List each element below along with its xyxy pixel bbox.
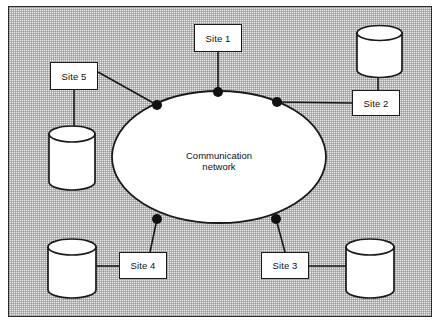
site-1-box[interactable]: Site 1 <box>194 24 242 52</box>
site-4-box[interactable]: Site 4 <box>119 252 167 279</box>
diagram-page: Communication network Site 1 Site 2 Site… <box>0 0 441 328</box>
database-cylinder-site-4 <box>48 239 96 298</box>
site-4-label: Site 4 <box>131 260 156 271</box>
site-3-label: Site 3 <box>273 260 298 271</box>
link-site2-network <box>277 102 352 103</box>
database-cylinder-site-2 <box>357 26 402 78</box>
node-lower-left-icon[interactable] <box>152 214 162 224</box>
site-5-label: Site 5 <box>62 71 87 82</box>
node-upper-right-icon[interactable] <box>272 97 282 107</box>
node-lower-right-icon[interactable] <box>271 214 281 224</box>
site-2-box[interactable]: Site 2 <box>352 90 400 116</box>
network-label-line-1: Communication <box>169 150 269 161</box>
site-5-box[interactable]: Site 5 <box>50 62 98 90</box>
database-cylinder-site-3 <box>346 239 394 298</box>
site-2-label: Site 2 <box>364 98 389 109</box>
link-site3-network <box>276 219 285 252</box>
link-site4-network <box>150 219 157 252</box>
node-upper-left-icon[interactable] <box>152 100 162 110</box>
link-site5-network <box>98 72 157 105</box>
database-cylinder-site-5 <box>49 126 95 190</box>
communication-network-label: Communication network <box>169 150 269 172</box>
site-3-box[interactable]: Site 3 <box>261 252 309 279</box>
network-label-line-2: network <box>169 161 269 172</box>
node-top-icon[interactable] <box>213 87 223 97</box>
site-1-label: Site 1 <box>206 33 231 44</box>
